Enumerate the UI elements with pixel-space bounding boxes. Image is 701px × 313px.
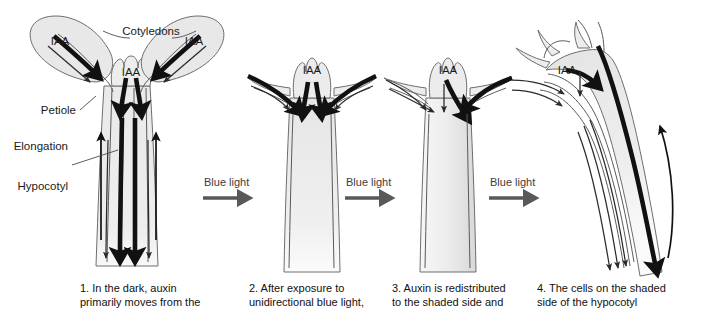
label-cotyledons: Cotyledons (122, 25, 180, 37)
panel-4-cotyledon-left (516, 48, 550, 68)
panel-1-iaa-label-right: IAA (185, 35, 204, 47)
blue-light-label-2: Blue light (346, 176, 391, 188)
caption-4-line-2: side of the hypocotyl (537, 296, 637, 308)
caption-4: 4. The cells on the shaded side of the h… (537, 282, 666, 308)
caption-2-line-1: 2. After exposure to (249, 282, 344, 294)
panel-1-iaa-label-left: IAA (51, 35, 70, 47)
blue-light-label-3: Blue light (490, 176, 535, 188)
label-hypocotyl: Hypocotyl (18, 180, 69, 192)
blue-light-label-1: Blue light (204, 176, 249, 188)
panel-4-seedling (512, 20, 673, 276)
caption-2: 2. After exposure to unidirectional blue… (249, 282, 364, 308)
caption-3: 3. Auxin is redistributed to the shaded … (392, 282, 506, 308)
phototropism-figure: IAA IAA IAA IAA IAA IAA Cotyledons Petio… (0, 0, 701, 313)
panel-4-cotyledon-upper (538, 30, 560, 56)
label-elongation: Elongation (14, 140, 68, 152)
panel-2-seedling (248, 58, 376, 272)
panel-1-basipetal-2 (120, 118, 122, 256)
caption-1-line-1: 1. In the dark, auxin (80, 282, 177, 294)
caption-2-line-2: unidirectional blue light, (249, 296, 364, 308)
diagram-canvas: IAA IAA IAA IAA IAA IAA Cotyledons Petio… (0, 0, 701, 313)
panel-4-auxin-cot-thin-1 (512, 80, 564, 94)
caption-3-line-1: 3. Auxin is redistributed (392, 282, 506, 294)
caption-1-line-2: primarily moves from the (80, 296, 200, 308)
panel-2-iaa-label-apex: IAA (303, 64, 322, 76)
label-petiole: Petiole (41, 104, 76, 116)
panel-1-iaa-label-apex: IAA (122, 66, 141, 78)
leader-petiole (80, 96, 96, 110)
panel-4-elongation-arrow-curved (660, 126, 673, 258)
caption-3-line-2: to the shaded side and (392, 296, 503, 308)
panel-4-auxin-cot-thin-2 (512, 90, 562, 106)
panel-3-iaa-label-apex: IAA (439, 64, 458, 76)
panel-4-iaa-label-apex: IAA (558, 64, 577, 76)
caption-1: 1. In the dark, auxin primarily moves fr… (80, 282, 200, 308)
panel-3-seedling (384, 58, 512, 272)
caption-4-line-1: 4. The cells on the shaded (537, 282, 666, 294)
